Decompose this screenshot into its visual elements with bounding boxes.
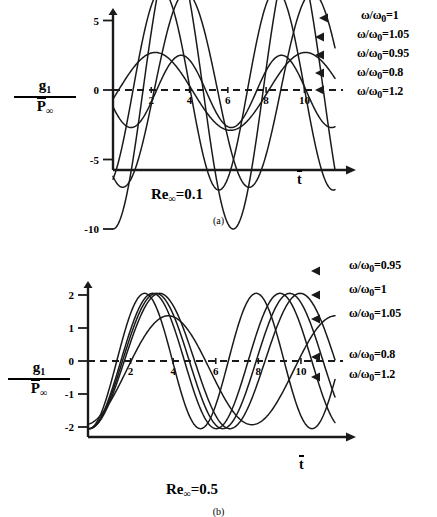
svg-text:2: 2 xyxy=(69,289,75,301)
legend-item-a-2: ω/ω0=0.95 xyxy=(357,46,409,62)
condition-caption-a: Re∞=0.1 xyxy=(151,186,203,204)
legend-arrow xyxy=(315,69,324,78)
x-axis-label-a: t xyxy=(297,172,302,188)
legend-arrow xyxy=(315,86,324,95)
curve xyxy=(113,0,335,229)
svg-text:0: 0 xyxy=(94,84,100,96)
legend-arrow xyxy=(311,267,320,276)
legend-item-b-4: ω/ω0=1.2 xyxy=(349,367,395,383)
legend-item-a-1: ω/ω0=1.05 xyxy=(357,27,409,43)
figure-panel-a: g1 P∞ 1050-5-10246810 t Re∞=0.1 (a) ω/ω0… xyxy=(0,0,437,258)
legend-arrow xyxy=(311,291,320,300)
figure-panel-b: g1 P∞ 210-1-2246810 t Re∞=0.5 (b) ω/ω0=0… xyxy=(0,257,437,515)
svg-text:10: 10 xyxy=(295,365,307,377)
svg-text:-1: -1 xyxy=(65,388,74,400)
condition-caption-b: Re∞=0.5 xyxy=(166,481,218,499)
x-axis-label-b: t xyxy=(299,457,304,473)
legend-item-a-4: ω/ω0=1.2 xyxy=(357,84,403,100)
legend-item-a-0: ω/ω0=1 xyxy=(361,8,399,24)
svg-text:6: 6 xyxy=(213,365,219,377)
svg-text:-5: -5 xyxy=(90,154,100,166)
legend-arrow xyxy=(319,14,328,23)
svg-text:6: 6 xyxy=(225,94,231,106)
svg-text:1: 1 xyxy=(69,322,75,334)
svg-text:-2: -2 xyxy=(65,421,75,433)
svg-text:0: 0 xyxy=(69,355,75,367)
legend-item-a-3: ω/ω0=0.8 xyxy=(357,65,403,81)
legend-arrow xyxy=(311,315,320,324)
subcaption-b: (b) xyxy=(0,506,437,517)
legend-item-b-1: ω/ω0=1 xyxy=(349,282,387,298)
legend-item-b-2: ω/ω0=1.05 xyxy=(349,306,401,322)
svg-text:5: 5 xyxy=(94,15,100,27)
legend-item-b-0: ω/ω0=0.95 xyxy=(349,258,401,274)
legend-item-b-3: ω/ω0=0.8 xyxy=(349,347,395,363)
subcaption-a: (a) xyxy=(0,215,437,226)
svg-text:8: 8 xyxy=(263,94,269,106)
